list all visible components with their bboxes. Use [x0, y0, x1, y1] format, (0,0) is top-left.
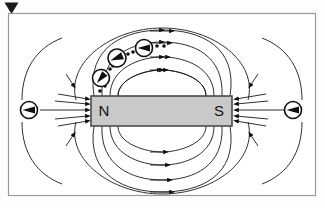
filing-dot: [131, 50, 135, 54]
filing-dot: [98, 89, 102, 93]
filing-dot: [162, 44, 166, 48]
south-pole-label: S: [214, 102, 224, 119]
north-pole-label: N: [99, 102, 110, 119]
filing-dot: [108, 67, 112, 71]
bar-magnet-field-diagram: N S: [0, 0, 325, 208]
magnet-body[interactable]: [91, 96, 232, 126]
bar-magnet[interactable]: N S: [91, 96, 232, 126]
filing-dot: [126, 52, 130, 56]
compass-right-axis[interactable]: [285, 102, 302, 119]
compass-left-axis[interactable]: [21, 102, 38, 119]
filing-dot: [155, 44, 159, 48]
compass-upper-right[interactable]: [136, 40, 153, 57]
figure-stage: N S: [0, 0, 325, 208]
